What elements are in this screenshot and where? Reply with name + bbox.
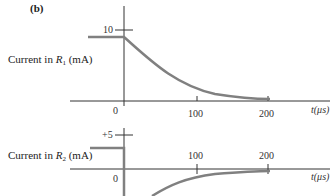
x-tick-label-100: 100	[188, 150, 203, 161]
x-tick-label-100: 100	[188, 108, 203, 119]
panel-label: (b)	[30, 2, 44, 15]
chart-figure: (b) 10 0 100 200 t(μs) Current in R1 (mA…	[0, 0, 332, 196]
x-tick-label-0: 0	[113, 173, 118, 184]
x-tick-label-200: 200	[259, 150, 274, 161]
curve-r1	[88, 37, 270, 99]
y-axis-label: Current in R2 (mA)	[8, 149, 93, 163]
x-axis-label: t(μs)	[311, 104, 330, 116]
curve-r2-step	[90, 148, 124, 196]
y-tick-label: 10	[103, 24, 113, 35]
chart-r2: +5 0 100 200 t(μs) Current in R2 (mA)	[8, 128, 330, 196]
x-tick-label-200: 200	[259, 108, 274, 119]
y-tick-label: +5	[102, 129, 113, 140]
x-axis-label: t(μs)	[311, 171, 330, 183]
y-axis-label: Current in R1 (mA)	[8, 53, 93, 67]
chart-r1: 10 0 100 200 t(μs) Current in R1 (mA)	[8, 6, 330, 119]
curve-r2	[152, 171, 270, 196]
x-tick-label-0: 0	[113, 105, 118, 116]
